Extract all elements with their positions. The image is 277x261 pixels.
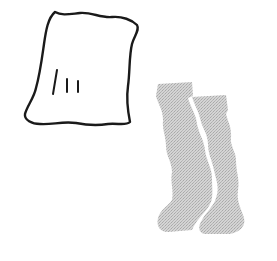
towel-mark-1 — [53, 70, 57, 94]
illustration — [0, 0, 277, 261]
socks-icon — [156, 82, 244, 234]
towel-icon — [25, 12, 138, 125]
towel-outline — [25, 12, 138, 125]
